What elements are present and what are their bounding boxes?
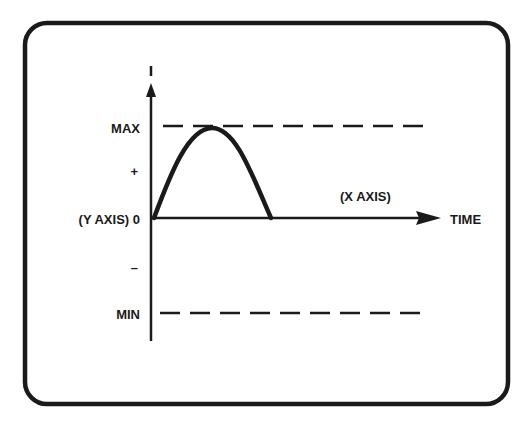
min-label: MIN: [116, 307, 140, 322]
y-axis-arrow-icon: [146, 83, 156, 97]
diagram-canvas: MAX + (Y AXIS) 0 – MIN (X AXIS) TIME: [0, 0, 525, 421]
time-label: TIME: [450, 212, 481, 227]
x-axis: [151, 211, 441, 225]
y-axis-zero-label: (Y AXIS) 0: [79, 212, 140, 227]
x-axis-arrow-icon: [416, 211, 441, 225]
plus-label: +: [130, 164, 138, 179]
max-label: MAX: [111, 121, 140, 136]
pulse-curve: [154, 128, 271, 218]
minus-label: –: [131, 260, 138, 275]
y-axis: [146, 66, 156, 341]
x-axis-label: (X AXIS): [340, 189, 391, 204]
